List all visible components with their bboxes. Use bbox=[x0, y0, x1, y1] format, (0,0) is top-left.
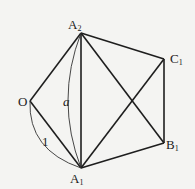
point-label-b1: B1 bbox=[166, 138, 179, 153]
segment-a2-b1 bbox=[81, 33, 164, 143]
segments bbox=[30, 33, 164, 168]
point-label-c1: C1 bbox=[170, 52, 183, 67]
point-label-a1: A1 bbox=[70, 172, 83, 187]
brace-label-1: 1 bbox=[42, 135, 49, 148]
diagram-canvas bbox=[0, 0, 195, 189]
point-label-o: O bbox=[18, 95, 27, 108]
segment-o-a1 bbox=[30, 101, 81, 168]
braces bbox=[30, 33, 81, 168]
segment-o-a2 bbox=[30, 33, 81, 101]
segment-a1-c1 bbox=[81, 59, 164, 168]
segment-a2-c1 bbox=[81, 33, 164, 59]
segment-a1-b1 bbox=[81, 143, 164, 168]
point-label-a2: A2 bbox=[68, 18, 81, 33]
geometry-diagram: A2 C1 O B1 A1 a 1 bbox=[0, 0, 195, 189]
brace-label-a: a bbox=[63, 95, 70, 108]
